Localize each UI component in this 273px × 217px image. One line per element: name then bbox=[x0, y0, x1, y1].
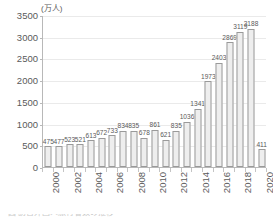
x-axis-tick-mark bbox=[95, 168, 96, 172]
bar-slot: 834 bbox=[118, 16, 129, 167]
x-axis-tick-label: 2010 bbox=[158, 172, 168, 193]
bar-slot: 475 bbox=[43, 16, 54, 167]
x-axis-tick-mark bbox=[181, 168, 182, 172]
y-axis-tick-label: 1500 bbox=[2, 98, 38, 108]
x-axis-tick-label: 2002 bbox=[73, 172, 83, 193]
bar-slot: 613 bbox=[86, 16, 97, 167]
bar[interactable] bbox=[98, 138, 105, 167]
bar-slot: 733 bbox=[107, 16, 118, 167]
y-axis-tick-label: 2000 bbox=[2, 76, 38, 86]
bar[interactable] bbox=[87, 140, 94, 167]
bar-slot: 861 bbox=[150, 16, 161, 167]
figure-caption-text: 図 訪日外国人旅行者数の推移 bbox=[8, 214, 158, 217]
y-axis-tick-label: 2500 bbox=[2, 54, 38, 64]
x-axis-tick-mark bbox=[191, 168, 192, 172]
bar-slot: 835 bbox=[171, 16, 182, 167]
bar[interactable] bbox=[66, 144, 73, 167]
bar-slot: 1973 bbox=[203, 16, 214, 167]
bar[interactable] bbox=[237, 32, 244, 167]
x-axis-tick-mark bbox=[170, 168, 171, 172]
bar[interactable] bbox=[151, 130, 158, 167]
bar-value-label: 475 bbox=[43, 139, 54, 146]
x-axis-tick-mark bbox=[117, 168, 118, 172]
x-axis-tick-label: 2018 bbox=[243, 172, 253, 193]
bar-value-label: 835 bbox=[171, 123, 182, 130]
bar-slot: 2869 bbox=[224, 16, 235, 167]
bar-slot: 835 bbox=[128, 16, 139, 167]
x-axis-tick-label: 2012 bbox=[179, 172, 189, 193]
x-axis-tick-mark bbox=[149, 168, 150, 172]
bar-value-label: 733 bbox=[107, 128, 118, 135]
x-axis-tick-label: 2020 bbox=[265, 172, 273, 193]
x-axis-tick-mark bbox=[234, 168, 235, 172]
bar[interactable] bbox=[205, 81, 212, 167]
x-axis-tick-label: 2016 bbox=[222, 172, 232, 193]
bar[interactable] bbox=[247, 29, 254, 167]
bar-value-label: 835 bbox=[128, 123, 139, 130]
bar-slot: 477 bbox=[54, 16, 65, 167]
bar[interactable] bbox=[109, 135, 116, 167]
x-axis-tick-mark bbox=[255, 168, 256, 172]
bar[interactable] bbox=[215, 63, 222, 167]
y-axis-tick-label: 3500 bbox=[2, 11, 38, 21]
bar-slot: 3188 bbox=[246, 16, 257, 167]
y-axis-tick-mark bbox=[40, 168, 43, 169]
x-axis-tick-label: 2004 bbox=[94, 172, 104, 193]
y-axis-tick-label: 1000 bbox=[2, 120, 38, 130]
x-axis-tick-mark bbox=[106, 168, 107, 172]
bar-slot: 672 bbox=[96, 16, 107, 167]
x-axis-tick-mark bbox=[159, 168, 160, 172]
bar-slot: 621 bbox=[160, 16, 171, 167]
bar-value-label: 621 bbox=[160, 132, 171, 139]
bar-value-label: 477 bbox=[53, 139, 64, 146]
bar[interactable] bbox=[173, 131, 180, 167]
y-axis-unit-label: (万人) bbox=[41, 2, 62, 13]
bar[interactable] bbox=[183, 122, 190, 167]
x-axis-tick-mark bbox=[266, 168, 267, 172]
x-axis-tick-mark bbox=[138, 168, 139, 172]
bar-slot: 523 bbox=[64, 16, 75, 167]
bar-slot: 3119 bbox=[235, 16, 246, 167]
y-axis-tick-label: 3000 bbox=[2, 33, 38, 43]
bar-value-label: 861 bbox=[149, 122, 160, 129]
figure-caption: 図 訪日外国人旅行者数の推移 bbox=[8, 214, 158, 217]
bar[interactable] bbox=[258, 149, 265, 167]
bar-value-label: 613 bbox=[85, 133, 96, 140]
bar[interactable] bbox=[226, 42, 233, 167]
x-axis-tick-mark bbox=[213, 168, 214, 172]
bar-series: 4754775235216136727338348356788616218351… bbox=[43, 16, 266, 167]
bar[interactable] bbox=[55, 146, 62, 167]
x-axis-tick-mark bbox=[223, 168, 224, 172]
x-axis-tick-mark bbox=[53, 168, 54, 172]
bar[interactable] bbox=[77, 144, 84, 167]
x-axis-tick-mark bbox=[245, 168, 246, 172]
x-axis-tick-mark bbox=[74, 168, 75, 172]
bar[interactable] bbox=[194, 109, 201, 167]
bar-slot: 1036 bbox=[182, 16, 193, 167]
x-axis-tick-label: 2008 bbox=[137, 172, 147, 193]
y-axis-tick-label: 500 bbox=[2, 141, 38, 151]
bar-value-label: 523 bbox=[64, 137, 75, 144]
bar-value-label: 672 bbox=[96, 130, 107, 137]
bar-value-label: 521 bbox=[75, 137, 86, 144]
x-axis-tick-mark bbox=[85, 168, 86, 172]
bar[interactable] bbox=[119, 131, 126, 167]
bar-chart: (万人) 0500100015002000250030003500 475477… bbox=[0, 0, 273, 217]
bar[interactable] bbox=[162, 140, 169, 167]
x-axis-tick-mark bbox=[202, 168, 203, 172]
bar[interactable] bbox=[130, 131, 137, 167]
x-axis-tick-label: 2006 bbox=[115, 172, 125, 193]
bar-value-label: 411 bbox=[256, 142, 267, 149]
bar[interactable] bbox=[141, 138, 148, 167]
y-axis-tick-label: 0 bbox=[2, 163, 38, 173]
bar-value-label: 678 bbox=[139, 130, 150, 137]
x-axis-tick-mark bbox=[127, 168, 128, 172]
x-axis-tick-label: 2000 bbox=[51, 172, 61, 193]
bar[interactable] bbox=[45, 146, 52, 167]
x-axis-tick-label: 2014 bbox=[201, 172, 211, 193]
x-axis-tick-mark bbox=[63, 168, 64, 172]
bar-slot: 1341 bbox=[192, 16, 203, 167]
plot-area: 4754775235216136727338348356788616218351… bbox=[42, 16, 266, 168]
bar-value-label: 834 bbox=[117, 123, 128, 130]
bar-slot: 678 bbox=[139, 16, 150, 167]
